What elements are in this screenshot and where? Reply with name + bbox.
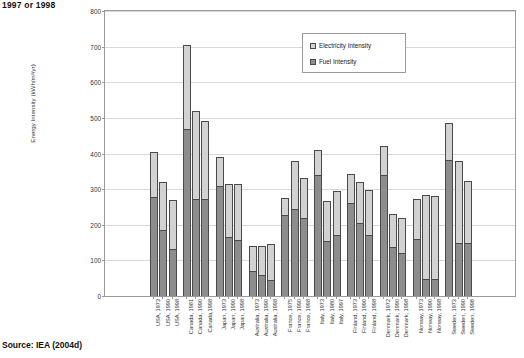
legend-label-electricity: Electricity Intensity xyxy=(319,42,371,49)
bar xyxy=(413,199,421,296)
bar xyxy=(234,184,242,296)
bar-segment-electricity xyxy=(413,199,421,239)
bar-segment-electricity xyxy=(150,152,158,197)
x-tick-label: Sweden, 1990 xyxy=(460,299,466,335)
bar-segment-fuel xyxy=(314,175,322,296)
bar-segment-fuel xyxy=(216,186,224,296)
bar-segment-fuel xyxy=(291,209,299,296)
x-tick-mark xyxy=(448,296,449,299)
x-tick-mark xyxy=(336,296,337,299)
bar xyxy=(291,161,299,296)
bar-segment-electricity xyxy=(431,196,439,279)
x-tick-label: Italy, 1980 xyxy=(329,299,335,324)
x-tick-label: France, 1990 xyxy=(296,299,302,332)
bar xyxy=(356,182,364,296)
bar-segment-fuel xyxy=(159,230,167,296)
bar-segment-electricity xyxy=(291,161,299,210)
bar-segment-fuel xyxy=(234,240,242,296)
x-tick-mark xyxy=(172,296,173,299)
x-tick-label: Japan, 1998 xyxy=(239,299,245,330)
x-tick-mark xyxy=(458,296,459,299)
bar-segment-electricity xyxy=(323,201,331,241)
x-tick-mark xyxy=(228,296,229,299)
bar-segment-electricity xyxy=(169,200,177,249)
bar xyxy=(183,45,191,296)
bar xyxy=(249,246,257,296)
bar xyxy=(333,191,341,296)
y-tick-mark xyxy=(102,296,105,297)
x-tick-label: Denmark, 1998 xyxy=(403,299,409,337)
bar-segment-fuel xyxy=(347,203,355,296)
bar-segment-fuel xyxy=(464,243,472,296)
x-tick-label: Denmark, 1972 xyxy=(385,299,391,337)
x-tick-mark xyxy=(416,296,417,299)
x-tick-label: Norway, 1990 xyxy=(427,299,433,333)
bar xyxy=(464,181,472,296)
bar-segment-fuel xyxy=(389,247,397,296)
bar-segment-electricity xyxy=(234,184,242,240)
x-tick-mark xyxy=(261,296,262,299)
x-tick-label: Sweden, 1973 xyxy=(451,299,457,335)
bar-segment-fuel xyxy=(281,215,289,296)
bar-segment-fuel xyxy=(300,218,308,296)
bar-segment-fuel xyxy=(413,239,421,296)
bar-segment-electricity xyxy=(464,181,472,243)
bar xyxy=(380,146,388,296)
legend-label-fuel: Fuel Intensity xyxy=(319,58,356,65)
bar-segment-electricity xyxy=(300,178,308,218)
bar-segment-fuel xyxy=(150,197,158,296)
bar-segment-fuel xyxy=(380,175,388,296)
y-tick-label: 0 xyxy=(97,293,101,300)
bar-segment-electricity xyxy=(267,244,275,280)
x-tick-mark xyxy=(252,296,253,299)
bar-segment-fuel xyxy=(356,223,364,296)
bar xyxy=(216,157,224,296)
y-tick-label: 800 xyxy=(90,8,101,15)
x-tick-label: Australia, 1990 xyxy=(263,299,269,336)
x-tick-mark xyxy=(294,296,295,299)
bar-segment-electricity xyxy=(225,184,233,237)
bar-segment-fuel xyxy=(183,129,191,296)
x-tick-label: Japan, 1990 xyxy=(230,299,236,330)
bar xyxy=(314,150,322,296)
y-tick-label: 700 xyxy=(90,43,101,50)
bar-segment-fuel xyxy=(192,199,200,296)
bar xyxy=(225,184,233,296)
x-tick-mark xyxy=(467,296,468,299)
bar-segment-electricity xyxy=(201,121,209,199)
bar-segment-fuel xyxy=(323,241,331,296)
x-tick-mark xyxy=(204,296,205,299)
x-tick-mark xyxy=(326,296,327,299)
chart-legend: Electricity Intensity Fuel Intensity xyxy=(302,33,406,73)
x-tick-mark xyxy=(392,296,393,299)
y-tick-label: 200 xyxy=(90,221,101,228)
legend-item-fuel: Fuel Intensity xyxy=(310,58,356,65)
bar-segment-electricity xyxy=(249,246,257,271)
y-axis-title: Energy Intensity (kWh/m²/yr) xyxy=(29,29,36,179)
bar-segment-electricity xyxy=(159,182,167,230)
bar xyxy=(323,201,331,296)
x-tick-label: Norway, 1998 xyxy=(436,299,442,333)
bar xyxy=(267,244,275,296)
x-tick-label: Finland, 1998 xyxy=(371,299,377,333)
bar-segment-electricity xyxy=(365,190,373,236)
x-tick-label: Canada, 1981 xyxy=(188,299,194,334)
y-tick-label: 300 xyxy=(90,186,101,193)
x-tick-label: Norway, 1973 xyxy=(418,299,424,333)
bar-segment-electricity xyxy=(380,146,388,175)
x-tick-mark xyxy=(270,296,271,299)
legend-item-electricity: Electricity Intensity xyxy=(310,42,371,49)
x-tick-label: France, 1975 xyxy=(287,299,293,332)
x-tick-label: USA, 1998 xyxy=(174,299,180,326)
bar xyxy=(398,218,406,296)
x-tick-mark xyxy=(162,296,163,299)
x-tick-label: Finland, 1973 xyxy=(352,299,358,333)
bar-segment-fuel xyxy=(267,280,275,296)
bar-segment-electricity xyxy=(347,174,355,203)
x-tick-label: USA, 1973 xyxy=(155,299,161,326)
bar xyxy=(431,196,439,296)
bar-segment-fuel xyxy=(225,237,233,296)
bar-segment-electricity xyxy=(422,195,430,279)
chart-caption: 1997 or 1998 xyxy=(2,0,55,10)
x-tick-mark xyxy=(219,296,220,299)
